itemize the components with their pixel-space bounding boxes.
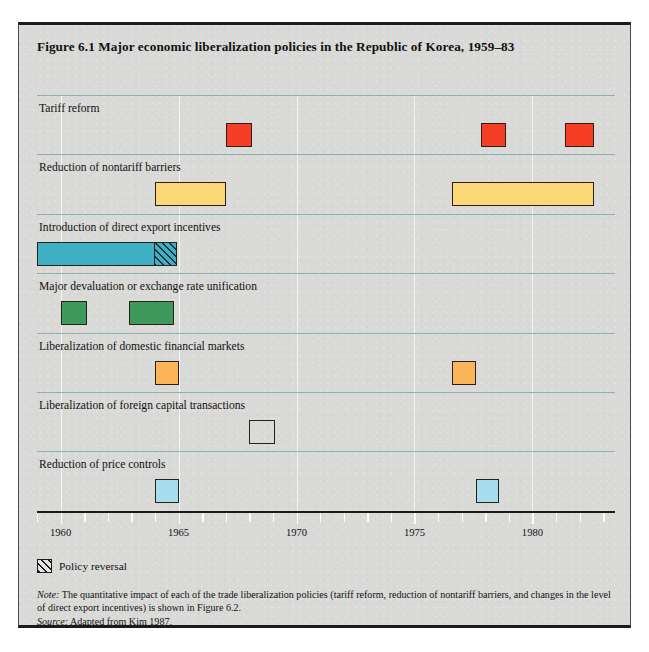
note-text: The quantitative impact of each of the t… bbox=[37, 589, 611, 613]
row-label: Tariff reform bbox=[39, 102, 99, 115]
axis-tick-label: 1960 bbox=[50, 527, 71, 538]
gridline-1975 bbox=[414, 95, 415, 511]
row-label: Liberalization of foreign capital transa… bbox=[39, 399, 245, 412]
source-text: Adapted from Kim 1987. bbox=[68, 616, 172, 627]
axis-tick-major bbox=[61, 513, 62, 524]
axis-tick bbox=[438, 513, 439, 522]
axis-tick bbox=[37, 513, 38, 522]
hatched-swatch-icon bbox=[37, 559, 52, 573]
axis-tick bbox=[273, 513, 274, 522]
row-label: Liberalization of domestic financial mar… bbox=[39, 340, 244, 353]
figure-panel: Figure 6.1 Major economic liberalization… bbox=[18, 22, 631, 628]
policy-bar bbox=[155, 361, 179, 385]
policy-bar bbox=[129, 301, 174, 325]
policy-bar bbox=[565, 123, 593, 147]
axis-tick bbox=[556, 513, 557, 522]
policy-bar bbox=[476, 479, 500, 503]
row-label: Introduction of direct export incentives bbox=[39, 221, 221, 234]
axis-tick bbox=[249, 513, 250, 522]
axis-tick-major bbox=[179, 513, 180, 524]
row-label: Reduction of price controls bbox=[39, 458, 166, 471]
row-separator bbox=[37, 95, 615, 96]
legend: Policy reversal bbox=[37, 559, 127, 573]
policy-reversal-bar bbox=[155, 242, 177, 266]
axis-tick bbox=[202, 513, 203, 522]
axis-tick bbox=[603, 513, 604, 522]
axis-tick-major bbox=[532, 513, 533, 524]
policy-bar bbox=[249, 420, 275, 444]
policy-bar bbox=[452, 182, 594, 206]
policy-bar bbox=[481, 123, 507, 147]
row-label: Reduction of nontariff barriers bbox=[39, 161, 181, 174]
row-separator bbox=[37, 451, 615, 452]
axis-tick-major bbox=[414, 513, 415, 524]
axis-tick bbox=[344, 513, 345, 522]
policy-bar bbox=[61, 301, 87, 325]
note-line: Note: The quantitative impact of each of… bbox=[37, 588, 615, 615]
source-line: Source: Adapted from Kim 1987. bbox=[37, 615, 615, 628]
axis-tick bbox=[367, 513, 368, 522]
policy-bar bbox=[37, 242, 155, 266]
axis-tick-label: 1970 bbox=[286, 527, 307, 538]
axis-tick bbox=[391, 513, 392, 522]
axis-tick-label: 1980 bbox=[522, 527, 543, 538]
row-separator bbox=[37, 214, 615, 215]
row-label: Major devaluation or exchange rate unifi… bbox=[39, 280, 257, 293]
row-separator bbox=[37, 392, 615, 393]
axis-tick-label: 1975 bbox=[404, 527, 425, 538]
figure-notes: Note: The quantitative impact of each of… bbox=[37, 588, 615, 628]
legend-label: Policy reversal bbox=[59, 560, 127, 572]
axis-tick bbox=[155, 513, 156, 522]
row-separator bbox=[37, 273, 615, 274]
figure-title: Figure 6.1 Major economic liberalization… bbox=[37, 39, 515, 55]
axis-tick bbox=[580, 513, 581, 522]
gridline-1965 bbox=[179, 95, 180, 511]
timeline-plot-area: Tariff reformReduction of nontariff barr… bbox=[37, 95, 615, 511]
axis-tick bbox=[485, 513, 486, 522]
policy-bar bbox=[155, 479, 179, 503]
x-axis: 19601965197019751980 bbox=[37, 511, 615, 551]
axis-tick bbox=[226, 513, 227, 522]
axis-tick-label: 1965 bbox=[168, 527, 189, 538]
axis-tick bbox=[462, 513, 463, 522]
source-prefix: Source: bbox=[37, 616, 68, 627]
axis-line bbox=[37, 511, 615, 513]
row-separator bbox=[37, 154, 615, 155]
gridline-1980 bbox=[532, 95, 533, 511]
note-prefix: Note: bbox=[37, 589, 59, 600]
policy-bar bbox=[155, 182, 226, 206]
axis-tick bbox=[131, 513, 132, 522]
axis-tick-major bbox=[297, 513, 298, 524]
gridline-1970 bbox=[297, 95, 298, 511]
policy-bar bbox=[226, 123, 252, 147]
row-separator bbox=[37, 333, 615, 334]
axis-tick bbox=[320, 513, 321, 522]
policy-bar bbox=[452, 361, 476, 385]
axis-tick bbox=[84, 513, 85, 522]
axis-tick bbox=[509, 513, 510, 522]
axis-tick bbox=[108, 513, 109, 522]
